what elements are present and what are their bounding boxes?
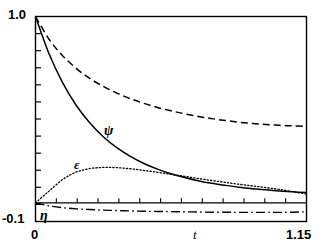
- y-axis-min-label: -0.1: [2, 212, 24, 225]
- curve-label-psi: ψ: [104, 124, 113, 138]
- y-axis-max-label: 1.0: [8, 8, 26, 21]
- x-axis-max-label: 1.15: [286, 228, 311, 241]
- plot-frame: [36, 17, 307, 222]
- plot-figure: 1.0 -0.1 0 1.15 t ψ ε η: [0, 0, 329, 249]
- curve-label-eta: η: [40, 209, 48, 223]
- frame-rect: [36, 17, 307, 222]
- x-axis-min-label: 0: [31, 228, 38, 241]
- plot-canvas: [0, 0, 329, 249]
- x-axis-name-label: t: [193, 228, 197, 241]
- curve-label-epsilon: ε: [74, 158, 79, 171]
